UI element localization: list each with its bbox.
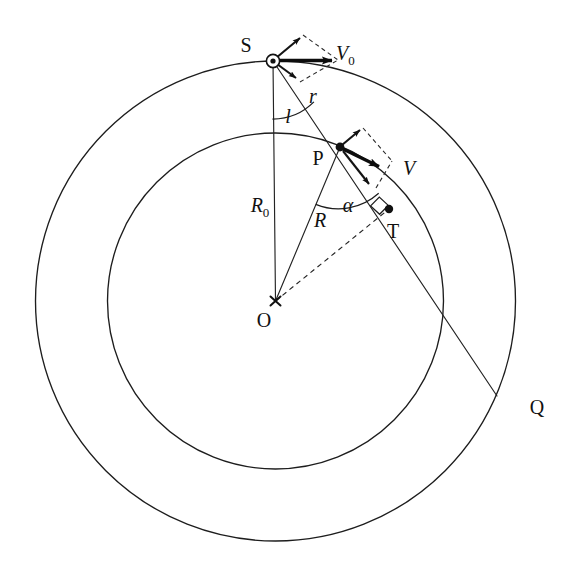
label-vector-v0: V0 (336, 42, 355, 68)
point-marker-T (385, 205, 393, 213)
label-point-Q: Q (530, 396, 545, 418)
dashed-line-OT (276, 209, 390, 301)
label-point-O: O (257, 309, 271, 331)
dashed-parallelogram-edge-p-upper (363, 128, 392, 161)
label-v0-subscript: 0 (348, 53, 355, 68)
radius-line-R (276, 147, 341, 301)
label-angle-alpha: α (343, 194, 354, 216)
diagram-canvas: S V0 r l P V R0 R α T O Q (0, 0, 579, 575)
chord-line-SQ (273, 61, 497, 396)
angle-arc-l (272, 102, 314, 119)
label-chord-r: r (309, 85, 317, 107)
orbital-geometry-figure: S V0 r l P V R0 R α T O Q (0, 0, 579, 575)
label-point-S: S (240, 34, 251, 56)
point-marker-S-dot (270, 58, 275, 63)
label-vector-v: V (403, 157, 418, 179)
vector-s-radial-up (276, 38, 300, 58)
point-marker-P (336, 143, 345, 152)
label-point-T: T (387, 220, 399, 242)
label-radius-R: R (313, 209, 326, 231)
label-R0-base: R (250, 194, 263, 216)
label-R0-subscript: 0 (263, 205, 270, 220)
vector-p-radial-up (342, 130, 360, 145)
dashed-parallelogram-edge-s-upper (303, 35, 338, 60)
radius-line-R0 (273, 61, 276, 301)
label-radius-R0: R0 (250, 194, 270, 220)
label-point-P: P (312, 147, 323, 169)
label-angle-l: l (285, 105, 291, 127)
